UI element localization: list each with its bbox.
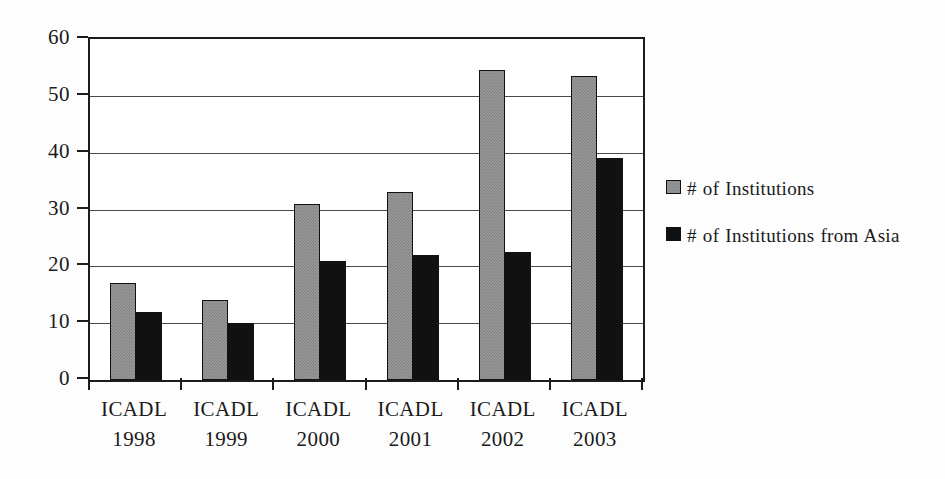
bar-group [551, 39, 643, 380]
x-category-label-line2: 2002 [457, 424, 549, 454]
legend-item[interactable]: # of Institutions from Asia [666, 223, 936, 248]
x-category-label: ICADL2001 [365, 394, 457, 454]
x-category-label-line1: ICADL [101, 397, 167, 421]
x-category-label: ICADL1999 [180, 394, 272, 454]
bar-group [367, 39, 459, 380]
x-category-label-line1: ICADL [562, 397, 628, 421]
y-tick-mark [77, 320, 88, 322]
bar [110, 283, 136, 380]
y-tick-mark [77, 36, 88, 38]
y-tick-mark [77, 207, 88, 209]
x-category-label-line2: 2003 [549, 424, 641, 454]
bar-group [182, 39, 274, 380]
legend-item-label: # of Institutions [687, 176, 814, 201]
x-category-label: ICADL2002 [457, 394, 549, 454]
y-tick-mark [77, 93, 88, 95]
plot-area [88, 37, 645, 382]
bar [387, 192, 413, 380]
bar-group [274, 39, 366, 380]
x-axis-labels: ICADL1998ICADL1999ICADL2000ICADL2001ICAD… [88, 394, 641, 464]
y-tick-mark [77, 263, 88, 265]
chart-legend: # of Institutions# of Institutions from … [666, 176, 936, 270]
x-category-label-line2: 1998 [88, 424, 180, 454]
y-axis: 0102030405060 [0, 0, 88, 420]
y-tick-label: 60 [48, 27, 70, 48]
bar [597, 158, 623, 380]
x-category-label-line1: ICADL [377, 397, 443, 421]
y-tick-label: 40 [48, 140, 70, 161]
x-category-label-line2: 2000 [272, 424, 364, 454]
legend-item-label: # of Institutions from Asia [687, 223, 900, 248]
bar [294, 204, 320, 380]
y-tick-label: 0 [59, 368, 70, 389]
y-tick-label: 50 [48, 83, 70, 104]
x-category-label-line1: ICADL [193, 397, 259, 421]
x-axis-tick-marks [88, 378, 645, 392]
x-category-label: ICADL2003 [549, 394, 641, 454]
y-tick-mark [77, 377, 88, 379]
x-category-label: ICADL2000 [272, 394, 364, 454]
y-tick-label: 20 [48, 254, 70, 275]
x-category-label: ICADL1998 [88, 394, 180, 454]
y-tick-mark [77, 150, 88, 152]
gray-square-icon [666, 180, 681, 194]
bar-group [90, 39, 182, 380]
bar [202, 300, 228, 380]
bar [479, 70, 505, 380]
bar [228, 323, 254, 380]
bars-layer [90, 39, 643, 380]
bar-chart-figure: 0102030405060 ICADL1998ICADL1999ICADL200… [0, 0, 945, 479]
bar-group [459, 39, 551, 380]
bar [571, 76, 597, 380]
black-square-icon [666, 227, 681, 241]
x-category-label-line2: 1999 [180, 424, 272, 454]
x-category-label-line1: ICADL [470, 397, 536, 421]
bar [320, 261, 346, 380]
x-category-label-line1: ICADL [285, 397, 351, 421]
legend-item[interactable]: # of Institutions [666, 176, 936, 201]
bar [413, 255, 439, 380]
bar [136, 312, 162, 380]
x-category-label-line2: 2001 [365, 424, 457, 454]
y-tick-label: 30 [48, 197, 70, 218]
bar [505, 252, 531, 380]
y-tick-label: 10 [48, 311, 70, 332]
